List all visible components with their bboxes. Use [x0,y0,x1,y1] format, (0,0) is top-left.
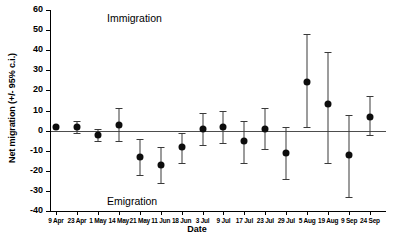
error-bar-cap-upper [199,113,206,114]
y-tick: 50 [46,30,51,31]
y-tick: 30 [46,70,51,71]
data-point [115,121,122,128]
error-bar-cap-upper [136,139,143,140]
data-point [220,123,227,130]
x-tick [182,211,183,215]
x-tick-label: 23 Jul [257,217,274,224]
annotation-emigration: Emigration [107,195,157,207]
y-tick: -30 [46,191,51,192]
error-bar-cap-upper [367,96,374,97]
data-point [53,123,60,130]
error-bar-cap-lower [346,197,353,198]
x-tick-label: 19 Aug [318,217,338,224]
x-tick [161,211,162,215]
plot-area: 6050403020100-10-20-30-40 9 Apr23 Apr1 M… [50,10,386,211]
error-bar-cap-upper [262,108,269,109]
x-tick-label: 21 May [129,217,149,224]
x-axis-title: Date [0,224,394,234]
y-tick: -40 [46,211,51,212]
x-tick-label: 9 Jul [217,217,231,224]
y-tick-label: 20 [33,84,43,94]
error-bar-cap-upper [241,121,248,122]
x-tick [119,211,120,215]
y-tick: -20 [46,171,51,172]
y-tick-label: -40 [30,205,43,215]
y-tick: 40 [46,50,51,51]
x-tick [140,211,141,215]
data-point [199,125,206,132]
y-tick: 20 [46,90,51,91]
x-tick [77,211,78,215]
data-point [304,79,311,86]
x-tick-label: 3 Jul [196,217,210,224]
annotation-immigration: Immigration [107,12,162,24]
data-point [94,131,101,138]
x-tick [244,211,245,215]
y-axis-title: Net migration (+/- 95% c.i.) [7,33,17,183]
error-bar-cap-upper [73,121,80,122]
data-point [157,161,164,168]
data-point [367,113,374,120]
error-bar-cap-lower [199,145,206,146]
x-tick [203,211,204,215]
error-bar-cap-upper [346,115,353,116]
data-point [241,137,248,144]
y-tick-label: 40 [33,44,43,54]
x-tick-label: 29 Jul [278,217,295,224]
x-tick [307,211,308,215]
data-point [325,101,332,108]
error-bar-cap-lower [241,163,248,164]
x-tick-label: 1 May [89,217,106,224]
x-tick-label: 14 May [109,217,129,224]
x-tick [56,211,57,215]
y-tick: 0 [46,131,51,132]
error-bar-cap-upper [157,147,164,148]
x-tick [98,211,99,215]
x-tick [349,211,350,215]
chart-figure: Net migration (+/- 95% c.i.) Date 605040… [0,0,394,240]
y-tick-label: 60 [33,4,43,14]
error-bar-cap-lower [283,179,290,180]
y-tick-label: -30 [30,185,43,195]
x-tick [328,211,329,215]
x-tick-label: 18 Jun [172,217,191,224]
y-tick-label: 10 [33,105,43,115]
x-tick [265,211,266,215]
x-tick-label: 17 Jul [236,217,253,224]
data-point [346,151,353,158]
y-tick: 60 [46,10,51,11]
error-bar-cap-lower [367,135,374,136]
x-tick-label: 24 Sep [360,217,380,224]
data-point [136,153,143,160]
error-bar-cap-upper [220,111,227,112]
error-bar-cap-upper [178,133,185,134]
error-bar-cap-lower [220,143,227,144]
error-bar-cap-upper [304,34,311,35]
error-bar-cap-upper [115,108,122,109]
error-bar-cap-lower [178,163,185,164]
error-bar-cap-lower [262,149,269,150]
x-tick [370,211,371,215]
data-point [262,125,269,132]
error-bar-cap-lower [325,163,332,164]
x-axis-line [50,211,386,212]
y-tick-label: 30 [33,64,43,74]
x-tick-label: 9 Apr [48,217,63,224]
data-point [73,123,80,130]
x-tick-label: 23 Apr [68,217,87,224]
data-point [283,149,290,156]
error-bar-cap-lower [115,141,122,142]
x-tick-label: 9 Sep [341,217,357,224]
x-tick [286,211,287,215]
error-bar-cap-lower [136,175,143,176]
error-bar-cap-lower [94,141,101,142]
y-tick: 10 [46,111,51,112]
error-bar-cap-lower [73,133,80,134]
error-bar-cap-upper [94,129,101,130]
error-bar-cap-upper [283,127,290,128]
x-tick-label: 5 Aug [299,217,316,224]
data-point [178,143,185,150]
error-bar-cap-lower [304,127,311,128]
y-tick: -10 [46,151,51,152]
y-tick-label: 0 [38,125,43,135]
